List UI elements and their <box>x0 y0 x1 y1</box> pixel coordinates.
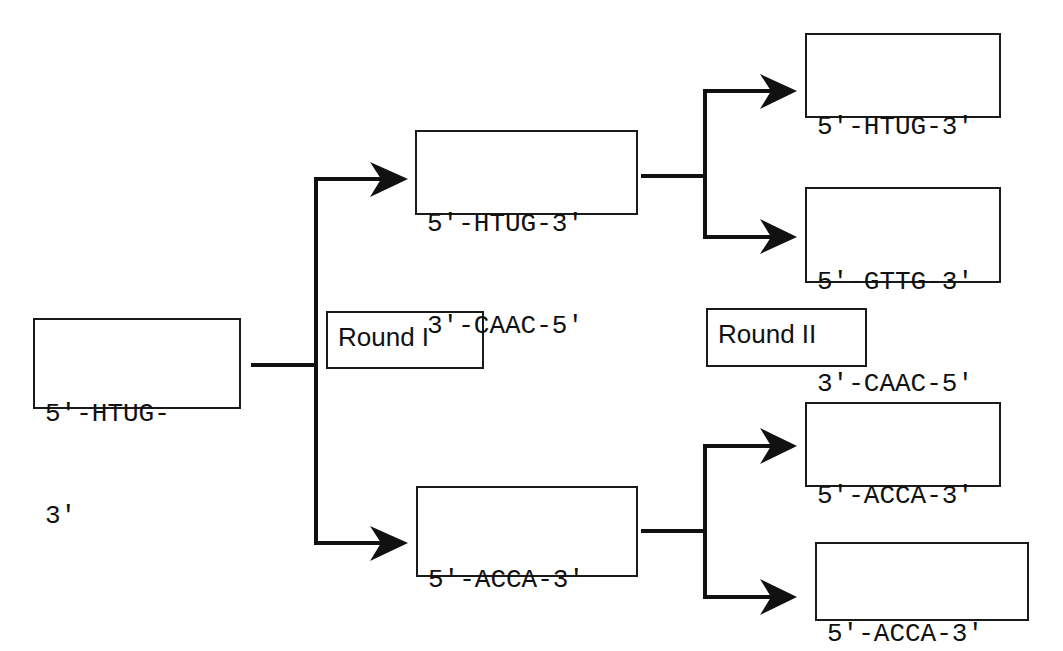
round2-product-1-line-1: 5′-HTUG-3′ <box>817 110 999 144</box>
round1-label-text: Round I <box>338 322 429 352</box>
round2-product-3-line-1: 5′-ACCA-3′ <box>817 479 999 513</box>
round1-product-top-line-1: 5′-HTUG-3′ <box>427 207 636 241</box>
round2-product-4-line-1: 5′-ACCA-3′ <box>827 617 1027 651</box>
parent-strand-line-1: 5′-HTUG- <box>45 397 239 431</box>
round1-product-top-box: 5′-HTUG-3′ 3′-CAAC-5′ <box>415 130 638 215</box>
parent-strand-line-2: 3′ <box>45 499 239 533</box>
round2-product-1-box: 5′-HTUG-3′ 3′-CAAC-5′ <box>805 33 1001 118</box>
round2-product-2-box: 5′-GTTG-3′ 3′-CAAC-5′ <box>805 187 1001 283</box>
round2-product-3-box: 5′-ACCA-3′ 3′-GTTG-5′ <box>805 402 1001 487</box>
round1-product-bottom-line-1: 5′-ACCA-3′ <box>428 563 636 597</box>
round2-product-2-line-2: 3′-CAAC-5′ <box>817 367 999 401</box>
replication-diagram: 5′-HTUG- 3′ Round I Round II 5′-HTUG-3′ … <box>0 0 1063 651</box>
round1-product-bottom-box: 5′-ACCA-3′ 3′-THGU-5′ <box>416 486 638 577</box>
parent-strand-box: 5′-HTUG- 3′ <box>33 318 241 409</box>
round2-product-2-line-1: 5′-GTTG-3′ <box>817 265 999 299</box>
round2-label-text: Round II <box>718 319 816 349</box>
round2-product-4-box: 5′-ACCA-3′ 3′-THGU-5′ <box>815 542 1029 621</box>
round1-product-top-line-2: 3′-CAAC-5′ <box>427 309 636 343</box>
